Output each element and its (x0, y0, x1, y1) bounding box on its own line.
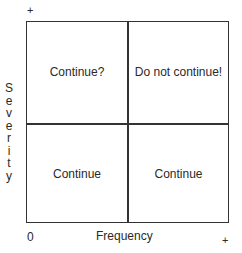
quadrant-label: Continue? (50, 65, 105, 79)
y-axis-max-label: + (27, 4, 33, 16)
quadrant-high-severity-high-frequency: Do not continue! (128, 21, 229, 123)
quadrant-high-severity-low-frequency: Continue? (26, 21, 128, 123)
quadrant-label: Continue (53, 167, 101, 181)
x-axis-label: Frequency (96, 229, 153, 243)
quadrant-label: Continue (154, 167, 202, 181)
quadrant-low-severity-high-frequency: Continue (128, 124, 229, 223)
origin-label: 0 (27, 230, 34, 244)
x-axis-max-label: + (222, 234, 228, 246)
quadrant-label: Do not continue! (135, 65, 222, 79)
quadrant-low-severity-low-frequency: Continue (26, 124, 128, 223)
y-axis-label: S e v e r i t y (3, 82, 15, 182)
